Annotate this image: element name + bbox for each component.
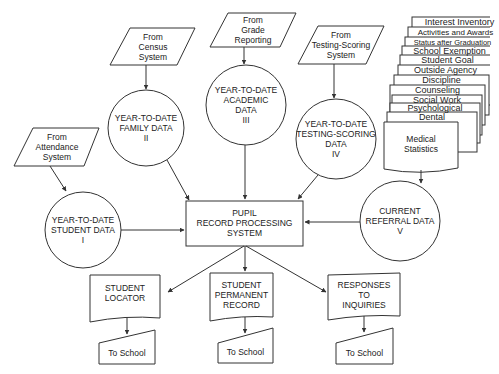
dest-locator-label: To School [99, 346, 155, 360]
source-testing-label: From Testing-Scoring System [303, 28, 379, 62]
source-census-label: From Census System [118, 30, 188, 64]
store-student-label: YEAR-TO-DATE STUDENT DATA I [45, 212, 121, 248]
card-medical-statistics: Medical Statistics [384, 132, 458, 156]
card-dental: Dental [387, 112, 477, 123]
store-family-label: YEAR-TO-DATE FAMILY DATA II [108, 110, 184, 146]
dest-permanent-label: To School [218, 345, 273, 359]
output-permanent-label: STUDENT PERMANENT RECORD [210, 278, 273, 312]
store-testing-label: YEAR-TO-DATE TESTING-SCORING DATA IV [296, 117, 376, 161]
source-grade-label: From Grade Reporting [218, 13, 288, 47]
output-inquiries-label: RESPONSES TO INQUIRIES [328, 278, 400, 312]
store-academic-label: YEAR-TO-DATE ACADEMIC DATA III [206, 83, 286, 127]
output-locator-label: STUDENT LOCATOR [90, 280, 160, 306]
dest-inquiries-label: To School [336, 346, 393, 360]
store-referral-label: CURRENT REFERRAL DATA V [360, 203, 440, 239]
process-label: PUPIL RECORD PROCESSING SYSTEM [186, 205, 303, 241]
source-attendance-label: From Attendance System [22, 130, 92, 164]
